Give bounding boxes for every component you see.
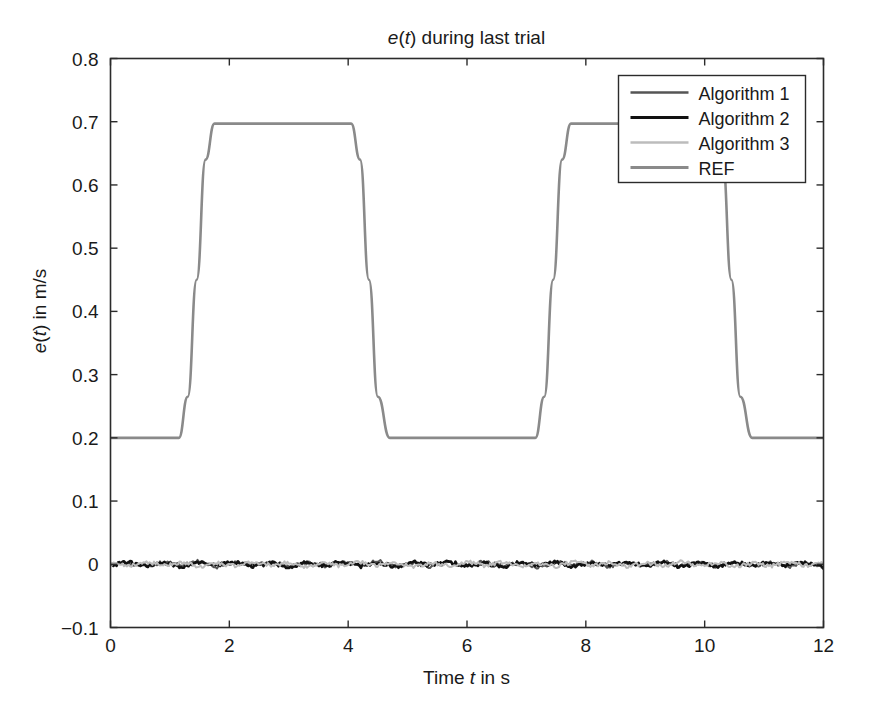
y-tick-label: 0 — [88, 554, 99, 575]
y-tick-label: 0.3 — [72, 365, 98, 386]
chart-plot-area: 024681012−0.100.10.20.30.40.50.60.70.8Al… — [0, 0, 870, 715]
x-tick-label: 4 — [343, 635, 354, 656]
y-tick-label: 0.7 — [72, 112, 98, 133]
legend-label-algorithm-1: Algorithm 1 — [699, 84, 790, 104]
x-tick-label: 6 — [462, 635, 473, 656]
ylabel-paren-close: ) — [29, 325, 50, 331]
y-axis-label: e(t) in m/s — [29, 211, 51, 411]
x-axis-label: Time t in s — [110, 667, 823, 689]
y-tick-label: 0.6 — [72, 175, 98, 196]
chart-title: e(t) during last trial — [110, 27, 823, 49]
xlabel-post: in s — [475, 667, 510, 688]
ylabel-paren-open: ( — [29, 336, 50, 342]
title-rest: during last trial — [416, 27, 545, 48]
ylabel-post: in m/s — [29, 269, 50, 325]
xlabel-pre: Time — [423, 667, 470, 688]
legend-label-algorithm-3: Algorithm 3 — [699, 134, 790, 154]
title-italic-e: e — [388, 27, 399, 48]
y-tick-label: 0.1 — [72, 491, 98, 512]
legend-label-ref: REF — [699, 159, 735, 179]
x-tick-label: 12 — [813, 635, 834, 656]
x-tick-label: 2 — [224, 635, 235, 656]
x-tick-label: 0 — [105, 635, 116, 656]
y-tick-label: 0.5 — [72, 238, 98, 259]
y-tick-label: −0.1 — [61, 618, 99, 639]
x-tick-label: 8 — [581, 635, 592, 656]
y-tick-label: 0.2 — [72, 428, 98, 449]
ylabel-italic-e: e — [29, 343, 50, 354]
y-tick-label: 0.8 — [72, 49, 98, 70]
figure-container: e(t) during last trial 024681012−0.100.1… — [0, 0, 870, 715]
x-tick-label: 10 — [694, 635, 715, 656]
ylabel-italic-t: t — [29, 331, 50, 336]
legend-label-algorithm-2: Algorithm 2 — [699, 109, 790, 129]
y-tick-label: 0.4 — [72, 301, 99, 322]
chart-legend[interactable]: Algorithm 1Algorithm 2Algorithm 3REF — [619, 76, 806, 183]
